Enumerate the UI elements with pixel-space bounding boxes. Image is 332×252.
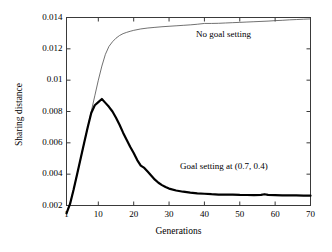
y-tick-label: 0.004 [42,169,62,178]
y-tick-label: 0.002 [42,201,62,210]
axis-ticks [67,18,311,206]
x-tick-label: 20 [119,210,149,219]
x-tick-label: 30 [154,210,184,219]
series-line-no-goal-setting [67,19,311,213]
chart-figure: 0.0020.0040.0060.0080.010.0120.014 11020… [0,0,332,252]
x-tick-label: 10 [83,210,113,219]
y-tick-label: 0.008 [42,107,62,116]
x-axis-title: Generations [156,226,202,236]
y-tick-label: 0.01 [47,75,63,84]
series-annotation-goal-setting: Goal setting at (0.7, 0.4) [180,161,268,171]
y-axis-title: Sharing distance [14,82,24,145]
axes-frame [67,18,311,206]
x-tick-label: 50 [225,210,255,219]
x-tick-label: 40 [189,210,219,219]
series-line-goal-setting [67,99,311,213]
y-tick-label: 0.012 [42,44,62,53]
x-tick-label: 60 [260,210,290,219]
y-tick-label: 0.014 [42,13,62,22]
series-annotation-no-goal-setting: No goal setting [196,29,251,39]
y-tick-label: 0.006 [42,138,62,147]
x-tick-label: 1 [52,210,82,219]
data-series [67,19,311,213]
x-tick-label: 70 [296,210,326,219]
